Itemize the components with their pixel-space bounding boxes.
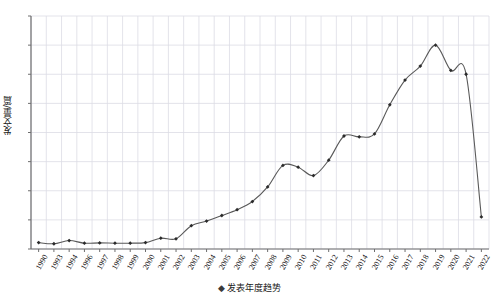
x-axis-tick-label: 2022	[476, 253, 492, 271]
x-axis-tick-label: 2005	[217, 253, 233, 271]
x-axis-tick-label: 2006	[232, 253, 248, 271]
x-axis-tick-label: 2012	[324, 253, 340, 271]
x-axis-tick-label: 2000	[141, 253, 157, 271]
x-axis-tick-label: 1997	[95, 253, 111, 271]
x-axis-tick-label: 2017	[400, 253, 416, 271]
x-axis-tick-label: 2014	[354, 253, 370, 271]
x-axis-tick-label: 2019	[431, 253, 447, 271]
x-axis-tick-label: 1994	[64, 253, 80, 271]
chart-legend: ◆发表年度趋势	[0, 281, 499, 294]
x-axis-tick-label: 2009	[278, 253, 294, 271]
x-axis-tick-label: 1998	[110, 253, 126, 271]
x-axis-tick-label: 2004	[202, 253, 218, 271]
x-axis-tick-label: 2015	[370, 253, 386, 271]
diamond-marker-icon: ◆	[218, 283, 225, 293]
x-axis-tick-label: 2011	[309, 253, 325, 271]
x-axis-tick-label: 2010	[293, 253, 309, 271]
x-axis-tick-label: 1990	[34, 253, 50, 271]
x-axis-tick-label: 2013	[339, 253, 355, 271]
x-axis-tick-label: 2001	[156, 253, 172, 271]
x-axis-tick-label: 2002	[171, 253, 187, 271]
x-axis-tick-label: 2016	[385, 253, 401, 271]
x-axis-tick-label: 1999	[125, 253, 141, 271]
publication-trend-chart: 发文量/篇 0100200300400500600700800 19901993…	[0, 0, 499, 299]
x-axis-tick-label: 2007	[247, 253, 263, 271]
x-axis-tick-label: 2003	[186, 253, 202, 271]
x-axis-tick-label: 2020	[446, 253, 462, 271]
x-axis-tick-label: 1996	[79, 253, 95, 271]
x-axis-tick-labels: 1990199319941996199719981999200020012002…	[0, 0, 499, 299]
x-axis-tick-label: 2008	[263, 253, 279, 271]
legend-label: 发表年度趋势	[227, 283, 281, 293]
x-axis-tick-label: 2018	[415, 253, 431, 271]
x-axis-tick-label: 2021	[461, 253, 477, 271]
x-axis-tick-label: 1993	[49, 253, 65, 271]
